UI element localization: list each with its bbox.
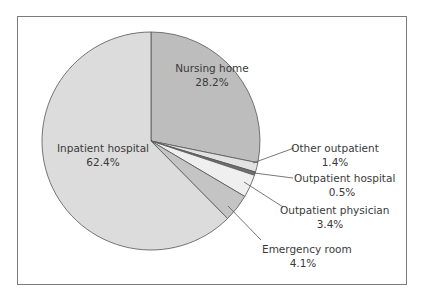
slice-name: Outpatient physician bbox=[280, 203, 380, 217]
leader-line-outpatient-physician bbox=[244, 182, 283, 207]
slice-percent: 1.4% bbox=[290, 155, 380, 169]
slice-name: Nursing home bbox=[172, 61, 252, 75]
pie-slice-nursing-home bbox=[151, 32, 260, 163]
label-outpatient-physician: Outpatient physician 3.4% bbox=[280, 203, 380, 231]
slice-percent: 0.5% bbox=[294, 185, 390, 199]
slice-percent: 28.2% bbox=[172, 75, 252, 89]
label-nursing-home: Nursing home 28.2% bbox=[172, 61, 252, 89]
label-outpatient-hospital: Outpatient hospital 0.5% bbox=[294, 171, 390, 199]
slice-name: Outpatient hospital bbox=[294, 171, 390, 185]
slice-name: Other outpatient bbox=[290, 141, 380, 155]
slice-percent: 4.1% bbox=[262, 256, 344, 270]
slice-name: Inpatient hospital bbox=[55, 141, 151, 155]
label-other-outpatient: Other outpatient 1.4% bbox=[290, 141, 380, 169]
leader-line-outpatient-hospital bbox=[254, 173, 293, 178]
label-emergency-room: Emergency room 4.1% bbox=[262, 242, 344, 270]
leader-line-emergency-room bbox=[228, 206, 261, 240]
label-inpatient-hospital: Inpatient hospital 62.4% bbox=[55, 141, 151, 169]
slice-name: Emergency room bbox=[262, 242, 344, 256]
slice-percent: 3.4% bbox=[280, 217, 380, 231]
slice-percent: 62.4% bbox=[55, 155, 151, 169]
